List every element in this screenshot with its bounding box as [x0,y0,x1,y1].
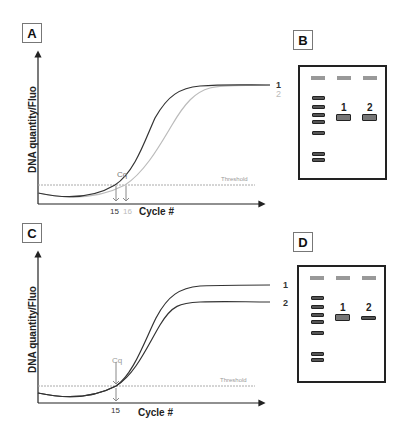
panel-b-label: B [293,30,313,50]
panel-c-ylabel: DNA quantity/Fluo [27,270,38,390]
panel-c-curve-1-label: 1 [283,280,288,290]
panel-c-curve-2-label: 2 [283,298,288,308]
gel-b-lane-2-label: 2 [367,102,373,113]
ladder-band [311,331,324,335]
gel-b: 1 2 [298,65,387,180]
gel-d-well-ladder [310,276,324,280]
panel-a-tick-16: 16 [123,207,132,216]
gel-d-sample-band-2 [361,316,376,320]
ladder-band [311,358,324,362]
gel-b-sample-band-2 [362,114,377,121]
gel-b-well-ladder [311,76,325,80]
ladder-band [311,305,324,309]
gel-b-sample-band-1 [336,114,351,121]
panel-d-label: D [293,232,313,252]
ladder-band [311,296,324,300]
panel-c-tick-15: 15 [111,406,120,415]
ladder-band [311,320,324,324]
ladder-band [312,131,325,135]
gel-b-well-1 [337,76,351,80]
gel-d-well-2 [362,276,376,280]
panel-c-xlabel: Cycle # [138,407,173,418]
panel-a-ylabel: DNA quantity/Fluo [27,70,38,190]
gel-b-well-2 [363,76,377,80]
ladder-band [312,120,325,124]
panel-c-label: C [22,223,42,243]
gel-d: 1 2 [297,265,386,383]
ladder-band [312,113,325,117]
panel-c-cq-label: Cq [112,356,122,365]
ladder-band [311,352,324,356]
gel-d-lane-1-label: 1 [340,302,346,313]
panel-a-threshold-label: Threshold [221,176,248,182]
panel-c-threshold-label: Threshold [220,377,247,383]
panel-a-xlabel: Cycle # [139,206,174,217]
ladder-band [312,96,325,100]
ladder-band [311,313,324,317]
gel-d-well-1 [336,276,350,280]
gel-d-lane-2-label: 2 [366,302,372,313]
ladder-band [312,158,325,162]
ladder-band [312,152,325,156]
panel-a-tick-15: 15 [110,207,119,216]
panel-a-curve-2-label: 2 [276,89,281,99]
ladder-band [312,105,325,109]
gel-d-sample-band-1 [335,314,350,321]
gel-b-lane-1-label: 1 [341,102,347,113]
panel-a-cq-label: Cq [117,170,127,179]
